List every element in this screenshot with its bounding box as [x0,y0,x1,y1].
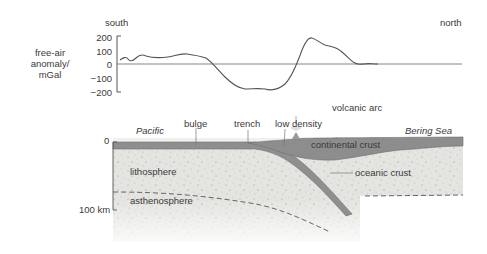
volcanic-arc-label: volcanic arc [332,103,382,113]
continental-crust-label: continental crust [311,140,380,150]
low-density-label: low density [275,119,322,129]
depth-100km-label: 100 km [79,205,110,215]
cross-section [113,116,463,250]
bulge-label: bulge [184,119,207,129]
gravity-graph [117,36,462,92]
pacific-label: Pacific [136,126,164,136]
volcano [292,132,300,139]
depth-0-label: 0 [104,136,109,146]
bering-sea-label: Bering Sea [405,126,452,136]
asthenosphere-label: asthenosphere [130,196,193,206]
oceanic-crust-label: oceanic crust [355,168,411,178]
trench-label: trench [234,119,260,129]
lithosphere-label: lithosphere [130,167,176,177]
